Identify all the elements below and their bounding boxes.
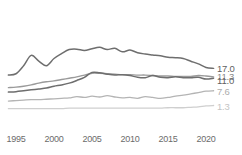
series-group [8,47,213,108]
x-tick-2000: 2000 [44,134,63,144]
series-line-5 [8,106,213,109]
end-label-series-4: 7.6 [217,86,230,97]
x-tick-1995: 1995 [6,134,25,144]
series-line-3 [8,72,213,92]
x-tick-2010: 2010 [120,134,139,144]
line-chart: 17.0 11.3 11.0 7.6 1.3 1995 2000 2005 20… [0,0,242,155]
series-line-1 [8,47,213,75]
end-label-series-5: 1.3 [217,101,230,112]
chart-plot-area [0,0,242,155]
x-axis: 1995 2000 2005 2010 2015 2020 [0,134,242,148]
x-tick-2005: 2005 [82,134,101,144]
end-label-series-3: 11.0 [217,75,234,86]
x-tick-2015: 2015 [158,134,177,144]
x-tick-2020: 2020 [196,134,215,144]
series-line-4 [8,91,213,101]
